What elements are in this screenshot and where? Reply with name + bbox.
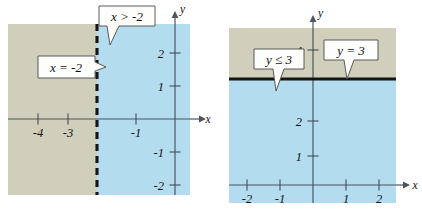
x-tick-label-minus1-right: -1 — [275, 192, 285, 206]
x-axis-arrowhead-right — [403, 182, 410, 189]
x-tick-label-2-right: 2 — [376, 192, 382, 206]
figure-container: -4 -3 -1 2 1 -1 -2 x y x > -2 x = -2 — [0, 0, 422, 211]
x-tick-label-minus2-right: -2 — [242, 192, 252, 206]
y-axis-label-left: y — [179, 3, 186, 16]
graph-panel-left: -4 -3 -1 2 1 -1 -2 x y x > -2 x = -2 — [0, 0, 211, 211]
callout-inequality-text-left: x > -2 — [110, 9, 143, 24]
callout-inequality-text-right: y ≤ 3 — [264, 52, 292, 67]
x-tick-label-minus1-left: -1 — [131, 126, 141, 140]
y-axis-label-right: y — [317, 7, 324, 20]
y-tick-label-1-left: 1 — [158, 80, 164, 94]
x-tick-label-minus3-left: -3 — [63, 126, 73, 140]
region-shaded-left — [97, 24, 190, 195]
x-axis-label-right: x — [411, 179, 418, 191]
x-tick-label-1-right: 1 — [343, 192, 349, 206]
region-unshaded-left — [8, 24, 97, 195]
x-tick-label-minus4-left: -4 — [33, 126, 43, 140]
graph-panel-right: -2 -1 1 2 4 2 1 x y y ≤ 3 y = 3 — [211, 0, 422, 211]
y-axis-arrowhead-left — [172, 11, 179, 18]
callout-boundary-text-right: y = 3 — [335, 43, 365, 58]
y-tick-label-minus1-left: -1 — [154, 146, 164, 160]
y-tick-label-2-left: 2 — [158, 47, 164, 61]
y-tick-label-1-right: 1 — [296, 150, 302, 164]
callout-boundary-text-left: x = -2 — [49, 60, 82, 75]
y-axis-arrowhead-right — [310, 15, 317, 22]
y-tick-label-minus2-left: -2 — [154, 179, 164, 193]
y-tick-label-2-right: 2 — [296, 115, 302, 129]
